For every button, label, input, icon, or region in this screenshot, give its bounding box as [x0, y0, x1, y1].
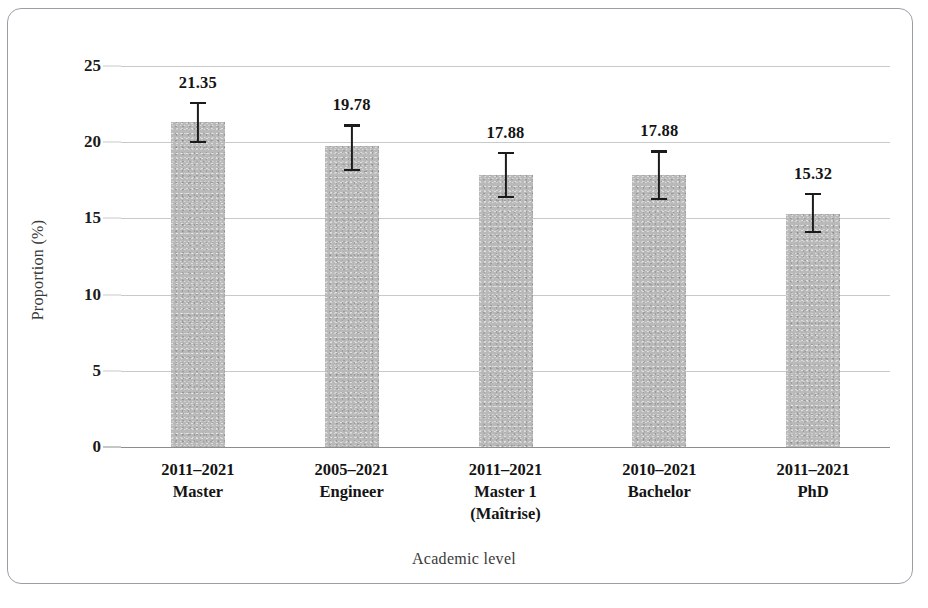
y-tick-label: 5	[93, 361, 122, 381]
x-tick-label: 2011–2021Master 1(Maîtrise)	[469, 459, 542, 525]
x-axis-title: Academic level	[0, 550, 928, 568]
bar-value-label: 17.88	[486, 123, 524, 143]
figure-canvas: 051015202521.3519.7817.8817.8815.32 2011…	[0, 0, 928, 608]
x-axis-line	[121, 447, 890, 448]
error-bar-cap-lower	[498, 196, 514, 198]
error-bar	[812, 194, 814, 232]
x-tick-label-line: Master	[161, 481, 234, 503]
error-bar-cap-lower	[805, 231, 821, 233]
x-tick-label-line: 2011–2021	[161, 459, 234, 481]
error-bar-cap-lower	[344, 169, 360, 171]
error-bar-cap-upper	[344, 124, 360, 126]
error-bar	[197, 103, 199, 143]
error-bar	[351, 125, 353, 169]
y-tick-label: 0	[93, 437, 122, 457]
error-bar-cap-lower	[190, 141, 206, 143]
error-bar-cap-lower	[651, 198, 667, 200]
y-tick-label: 15	[84, 208, 121, 228]
bar[interactable]	[325, 146, 379, 447]
bar-value-label: 19.78	[333, 95, 371, 115]
x-tick-label-line: 2005–2021	[315, 459, 389, 481]
x-tick-label: 2011–2021PhD	[776, 459, 849, 503]
bar[interactable]	[479, 175, 533, 447]
x-tick-label-line: 2010–2021	[622, 459, 696, 481]
bar-group[interactable]: 17.88	[632, 66, 686, 447]
x-tick-label: 2010–2021Bachelor	[622, 459, 696, 503]
plot-area: 051015202521.3519.7817.8817.8815.32	[121, 66, 890, 447]
bar[interactable]	[632, 175, 686, 447]
bar[interactable]	[786, 214, 840, 447]
x-tick-label-line: 2011–2021	[469, 459, 542, 481]
x-tick-label-line: (Maîtrise)	[469, 503, 542, 525]
y-tick-label: 10	[84, 285, 121, 305]
error-bar-cap-upper	[651, 150, 667, 152]
bar[interactable]	[171, 122, 225, 447]
bar-value-label: 15.32	[794, 164, 832, 184]
bar-value-label: 17.88	[640, 121, 678, 141]
y-tick-label: 20	[84, 132, 121, 152]
bar-group[interactable]: 17.88	[479, 66, 533, 447]
x-tick-label-line: Engineer	[315, 481, 389, 503]
bar-group[interactable]: 15.32	[786, 66, 840, 447]
x-tick-label: 2011–2021Master	[161, 459, 234, 503]
x-tick-label-line: Bachelor	[622, 481, 696, 503]
error-bar	[504, 153, 506, 197]
bar-group[interactable]: 21.35	[171, 66, 225, 447]
bar-value-label: 21.35	[179, 73, 217, 93]
x-tick-label-line: PhD	[776, 481, 849, 503]
error-bar-cap-upper	[498, 152, 514, 154]
error-bar	[658, 151, 660, 198]
x-tick-label-line: 2011–2021	[776, 459, 849, 481]
bar-group[interactable]: 19.78	[325, 66, 379, 447]
error-bar-cap-upper	[805, 193, 821, 195]
y-axis-title: Proportion (%)	[29, 80, 57, 461]
x-tick-label-line: Master 1	[469, 481, 542, 503]
x-tick-label: 2005–2021Engineer	[315, 459, 389, 503]
error-bar-cap-upper	[190, 102, 206, 104]
y-tick-label: 25	[84, 56, 121, 76]
